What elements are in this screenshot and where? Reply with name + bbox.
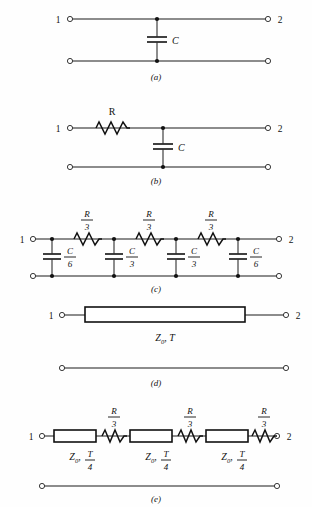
panel-a-terminal-label-right: 2 <box>278 15 283 25</box>
panel-e-resistor-1-denominator: 3 <box>111 419 117 429</box>
panel-e-tl-3-delay-numerator: T <box>239 449 245 459</box>
terminal-1-top <box>67 125 72 130</box>
panel-b-caption: (b) <box>151 176 162 186</box>
transmission-line-box <box>206 430 248 442</box>
junction-dot-bottom <box>236 274 240 278</box>
panel-a: 1 2 C (a) <box>56 15 283 83</box>
figure-root: 1 2 C (a) 1 2 R <box>0 0 312 507</box>
panel-e-transmission-line-2: Z0, T 4 <box>130 430 172 472</box>
panel-d: 1 2 Z0, T (d) <box>49 307 301 388</box>
terminal-1-bottom <box>67 58 72 63</box>
terminal-1-top <box>59 312 64 317</box>
junction-dot-bottom <box>112 274 116 278</box>
terminal-2-bottom <box>265 58 270 63</box>
tl-separator: , <box>78 451 81 462</box>
junction-dot-top <box>236 237 240 241</box>
panel-e-tl-2-delay-numerator: T <box>163 449 169 459</box>
panel-c-terminal-label-left: 1 <box>20 235 25 245</box>
panel-c-capacitor-3-denominator: 3 <box>191 259 197 269</box>
panel-c-terminal-label-right: 2 <box>289 235 294 245</box>
panel-e-tl-2-delay-denominator: 4 <box>164 462 169 472</box>
junction-dot-top <box>112 237 116 241</box>
terminal-1-top <box>30 236 35 241</box>
panel-c-resistor-1-numerator: R <box>83 209 90 219</box>
panel-e-tl-2-label: Z0, <box>145 451 156 464</box>
panel-d-transmission-line-label: Z0, T <box>155 332 176 345</box>
panel-c-capacitor-3: C 3 <box>167 237 200 278</box>
panel-c-capacitor-3-numerator: C <box>191 246 198 256</box>
circuit-diagram: 1 2 C (a) 1 2 R <box>0 0 312 507</box>
panel-c-capacitor-4: C 6 <box>229 237 262 278</box>
junction-dot-bottom <box>161 165 165 169</box>
panel-b-capacitor-label: C <box>178 142 185 153</box>
panel-e-resistor-2: R 3 <box>178 406 203 442</box>
panel-d-terminal-label-left: 1 <box>49 311 54 321</box>
panel-e-resistor-3: R 3 <box>252 406 277 442</box>
panel-b-resistor-label: R <box>109 106 116 117</box>
panel-c-resistor-3-denominator: 3 <box>208 222 214 232</box>
tl-separator: , <box>230 451 233 462</box>
panel-e-transmission-line-1: Z0, T 4 <box>54 430 96 472</box>
terminal-1-top <box>39 433 44 438</box>
panel-e-terminal-label-left: 1 <box>29 432 34 442</box>
panel-e-resistor-2-denominator: 3 <box>187 419 193 429</box>
junction-dot-bottom <box>155 59 159 63</box>
transmission-line-box <box>54 430 96 442</box>
panel-b-capacitor: C <box>153 126 185 169</box>
tl-delay: T <box>169 332 176 343</box>
panel-c-capacitor-2-denominator: 3 <box>129 259 135 269</box>
junction-dot-top <box>174 237 178 241</box>
terminal-2-top <box>265 16 270 21</box>
panel-a-caption: (a) <box>151 72 162 82</box>
terminal-2-bottom <box>283 365 288 370</box>
panel-b-resistor: R <box>96 106 130 134</box>
panel-b-terminal-label-right: 2 <box>278 124 283 134</box>
panel-c-capacitor-2-numerator: C <box>129 246 136 256</box>
panel-c-capacitor-1-numerator: C <box>67 246 74 256</box>
terminal-2-top <box>265 125 270 130</box>
panel-b: 1 2 R C (b) <box>56 106 283 186</box>
junction-dot-top <box>161 126 165 130</box>
terminal-1-bottom <box>59 365 64 370</box>
transmission-line-box <box>130 430 172 442</box>
panel-c-caption: (c) <box>151 284 161 294</box>
terminal-2-bottom <box>265 164 270 169</box>
terminal-1-bottom <box>30 273 35 278</box>
junction-dot-bottom <box>174 274 178 278</box>
panel-c-resistor-2-numerator: R <box>145 209 152 219</box>
junction-dot-top <box>50 237 54 241</box>
panel-c-resistor-2: R 3 <box>136 209 164 245</box>
panel-c-capacitor-4-denominator: 6 <box>254 259 259 269</box>
panel-e-resistor-3-denominator: 3 <box>261 419 267 429</box>
tl-separator: , <box>154 451 157 462</box>
panel-e-tl-3-delay-denominator: 4 <box>240 462 245 472</box>
panel-e-caption: (e) <box>151 494 161 504</box>
panel-c-resistor-2-denominator: 3 <box>146 222 152 232</box>
panel-a-capacitor: C <box>147 17 179 63</box>
panel-e-transmission-line-3: Z0, T 4 <box>206 430 248 472</box>
panel-c-capacitor-2: C 3 <box>105 237 138 278</box>
panel-e-tl-1-label: Z0, <box>69 451 80 464</box>
panel-e-resistor-1: R 3 <box>102 406 127 442</box>
panel-e-terminal-label-right: 2 <box>287 432 292 442</box>
panel-e: 1 2 Z0, T 4 R 3 Z0, T 4 R <box>29 406 292 504</box>
panel-e-tl-3-label: Z0, <box>221 451 232 464</box>
terminal-2-bottom <box>274 483 279 488</box>
panel-d-terminal-label-right: 2 <box>296 311 301 321</box>
panel-c: 1 2 C 6 R 3 C <box>20 209 294 294</box>
terminal-2-top <box>276 236 281 241</box>
panel-e-resistor-3-numerator: R <box>260 406 267 416</box>
panel-e-tl-1-delay-numerator: T <box>87 449 93 459</box>
terminal-1-bottom <box>39 483 44 488</box>
panel-e-tl-1-delay-denominator: 4 <box>88 462 93 472</box>
panel-d-caption: (d) <box>151 378 162 388</box>
terminal-2-bottom <box>276 273 281 278</box>
panel-d-transmission-line: Z0, T <box>85 307 245 345</box>
terminal-1-top <box>67 16 72 21</box>
panel-e-resistor-1-numerator: R <box>110 406 117 416</box>
junction-dot-top <box>155 17 159 21</box>
panel-c-resistor-1-denominator: 3 <box>84 222 90 232</box>
panel-a-terminal-label-left: 1 <box>56 15 61 25</box>
panel-c-capacitor-1-denominator: 6 <box>68 259 73 269</box>
panel-e-resistor-2-numerator: R <box>186 406 193 416</box>
